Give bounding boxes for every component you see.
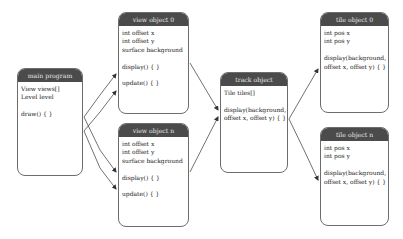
spacer xyxy=(224,97,285,105)
field-offset-x: int offset x xyxy=(122,140,186,148)
spacer xyxy=(122,54,186,62)
method-update: update() { } xyxy=(122,79,186,87)
field-background: surface background xyxy=(122,46,186,54)
field-background: surface background xyxy=(122,157,186,165)
spacer xyxy=(122,71,186,79)
node-body: int pos x int pos y display(background, … xyxy=(321,26,388,71)
method-display-args: offset x, offset y) { } xyxy=(224,114,285,122)
method-display: display() { } xyxy=(122,63,186,71)
arrow-track-to-tile0 xyxy=(289,69,318,119)
field-pos-x: int pos x xyxy=(324,29,386,37)
node-title: tile object n xyxy=(321,128,388,141)
node-title: view object 0 xyxy=(119,13,188,26)
node-track-object: track object Tile tiles[] display(backgr… xyxy=(220,72,288,173)
method-update: update() { } xyxy=(122,190,186,198)
field-level: Level level xyxy=(21,93,80,101)
node-body: int pos x int pos y display(background, … xyxy=(321,141,388,186)
arrow-track-to-tilen xyxy=(289,119,318,180)
node-tile-object-0: tile object 0 int pos x int pos y displa… xyxy=(320,12,389,113)
node-view-object-0: view object 0 int offset x int offset y … xyxy=(118,12,189,114)
spacer xyxy=(122,182,186,190)
node-tile-object-n: tile object n int pos x int pos y displa… xyxy=(320,127,389,226)
spacer xyxy=(324,46,386,54)
field-tiles: Tile tiles[] xyxy=(224,89,285,97)
spacer xyxy=(21,102,80,110)
node-body: Tile tiles[] display(background, offset … xyxy=(221,86,287,123)
spacer xyxy=(122,165,186,173)
method-display: display() { } xyxy=(122,174,186,182)
node-body: int offset x int offset y surface backgr… xyxy=(119,137,188,199)
node-body: int offset x int offset y surface backgr… xyxy=(119,26,188,88)
field-offset-y: int offset y xyxy=(122,148,186,156)
arrow-main-to-view0-display xyxy=(84,74,116,117)
method-draw: draw() { } xyxy=(21,110,80,118)
node-view-object-n: view object n int offset x int offset y … xyxy=(118,123,189,227)
node-title: track object xyxy=(221,73,287,86)
field-pos-y: int pos y xyxy=(324,152,386,160)
arrow-view0-to-track xyxy=(190,63,218,110)
field-pos-x: int pos x xyxy=(324,144,386,152)
field-pos-y: int pos y xyxy=(324,37,386,45)
arrow-main-to-view0-update xyxy=(84,91,116,131)
method-display: display(background, xyxy=(224,106,285,114)
node-title: tile object 0 xyxy=(321,13,388,26)
node-body: View views[] Level level draw() { } xyxy=(18,82,82,119)
node-title: main program xyxy=(18,69,82,82)
field-views: View views[] xyxy=(21,85,80,93)
method-display-args: offset x, offset y) { } xyxy=(324,63,386,71)
field-offset-y: int offset y xyxy=(122,37,186,45)
spacer xyxy=(324,161,386,169)
node-main-program: main program View views[] Level level dr… xyxy=(17,68,83,176)
arrow-main-to-viewn-update xyxy=(84,131,116,189)
method-display: display(background, xyxy=(324,169,386,177)
arrow-viewn-to-track xyxy=(190,117,218,172)
method-display: display(background, xyxy=(324,54,386,62)
method-display-args: offset x, offset y) { } xyxy=(324,178,386,186)
node-title: view object n xyxy=(119,124,188,137)
field-offset-x: int offset x xyxy=(122,29,186,37)
